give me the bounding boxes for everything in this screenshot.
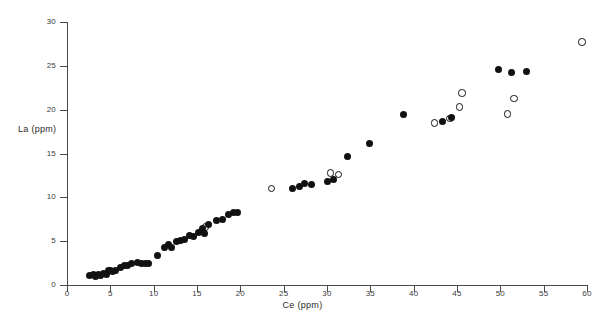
x-tick-label-45: 45 <box>446 289 468 298</box>
data-point <box>446 115 454 123</box>
data-point <box>301 180 308 187</box>
data-point <box>578 38 586 46</box>
x-tick-label-15: 15 <box>186 289 208 298</box>
data-point <box>344 153 351 160</box>
plot-area: 051015202530 051015202530354045505560 La… <box>0 0 605 318</box>
y-tick-25 <box>60 66 67 67</box>
y-tick-label-15: 15 <box>34 149 56 158</box>
y-tick-30 <box>60 22 67 23</box>
data-point <box>308 181 315 188</box>
data-point <box>145 260 152 267</box>
data-point <box>510 95 518 103</box>
data-point <box>168 244 175 251</box>
scatter-plot-figure: 051015202530 051015202530354045505560 La… <box>0 0 605 318</box>
data-point <box>202 223 210 231</box>
x-tick-label-35: 35 <box>359 289 381 298</box>
y-tick-label-30: 30 <box>34 17 56 26</box>
data-point <box>366 140 373 147</box>
x-tick-label-10: 10 <box>143 289 165 298</box>
y-tick-10 <box>60 197 67 198</box>
x-tick-label-55: 55 <box>533 289 555 298</box>
x-tick-label-0: 0 <box>56 289 78 298</box>
data-point <box>234 209 241 216</box>
y-tick-0 <box>60 285 67 286</box>
data-point <box>439 118 446 125</box>
x-tick-label-40: 40 <box>403 289 425 298</box>
x-tick-label-60: 60 <box>576 289 598 298</box>
y-tick-5 <box>60 241 67 242</box>
y-axis-line <box>67 22 68 285</box>
y-tick-label-10: 10 <box>34 192 56 201</box>
y-tick-label-25: 25 <box>34 61 56 70</box>
x-tick-label-25: 25 <box>273 289 295 298</box>
data-point <box>154 252 161 259</box>
y-tick-label-20: 20 <box>34 105 56 114</box>
data-point <box>268 185 276 193</box>
data-point <box>504 110 512 118</box>
data-point <box>458 89 466 97</box>
data-point <box>400 111 407 118</box>
data-point <box>335 171 343 179</box>
x-tick-label-5: 5 <box>99 289 121 298</box>
data-point <box>456 103 464 111</box>
data-point <box>289 185 296 192</box>
y-tick-15 <box>60 154 67 155</box>
y-tick-label-5: 5 <box>34 236 56 245</box>
data-point <box>523 68 530 75</box>
y-tick-label-0: 0 <box>34 280 56 289</box>
x-tick-label-20: 20 <box>229 289 251 298</box>
data-point <box>327 169 335 177</box>
y-tick-20 <box>60 110 67 111</box>
x-axis-title: Ce (ppm) <box>0 300 605 310</box>
y-axis-title: La (ppm) <box>18 124 56 134</box>
x-tick-label-30: 30 <box>316 289 338 298</box>
data-point <box>495 66 502 73</box>
data-point <box>508 69 515 76</box>
data-point <box>219 216 226 223</box>
x-tick-label-50: 50 <box>489 289 511 298</box>
data-point <box>431 119 439 127</box>
